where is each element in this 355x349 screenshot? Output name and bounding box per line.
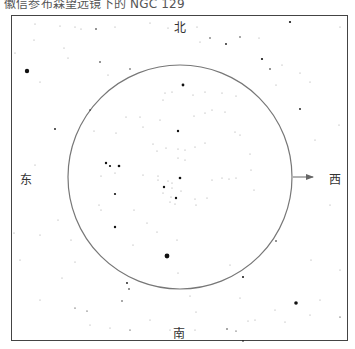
star [129, 329, 130, 330]
star [261, 58, 263, 60]
star [129, 68, 130, 69]
direction-label-north: 北 [174, 18, 186, 35]
faint-star [195, 311, 196, 312]
star [95, 28, 97, 30]
star [114, 193, 116, 195]
faint-star [194, 198, 195, 199]
faint-star [211, 109, 212, 110]
star [175, 197, 177, 199]
faint-star [239, 297, 240, 298]
faint-star [156, 150, 157, 151]
faint-star [14, 52, 15, 53]
faint-star [194, 329, 195, 330]
faint-star [204, 112, 205, 113]
star-field [0, 0, 355, 349]
faint-star [39, 299, 40, 300]
faint-star [67, 57, 68, 58]
faint-star [80, 28, 81, 29]
faint-star [338, 124, 339, 125]
star [25, 69, 29, 73]
faint-star [74, 26, 75, 27]
faint-star [156, 231, 157, 232]
direction-label-east: 东 [20, 170, 32, 187]
faint-star [180, 190, 181, 191]
faint-star [115, 132, 116, 133]
faint-star [254, 319, 255, 320]
faint-star [34, 23, 35, 24]
faint-star [184, 159, 185, 160]
star [126, 282, 128, 284]
faint-star [74, 261, 75, 262]
star [239, 36, 240, 37]
faint-star [314, 139, 315, 140]
faint-star [98, 204, 99, 205]
star [275, 240, 277, 242]
star [182, 84, 185, 87]
star [54, 128, 56, 130]
faint-star [211, 179, 212, 180]
faint-star [299, 72, 300, 73]
faint-star [177, 272, 178, 273]
faint-star [235, 95, 236, 96]
faint-star [57, 219, 58, 220]
faint-star [309, 314, 310, 315]
faint-star [174, 203, 175, 204]
faint-star [167, 180, 168, 181]
faint-star [224, 111, 225, 112]
star [225, 43, 227, 45]
star [179, 177, 182, 180]
faint-star [221, 177, 222, 178]
faint-star [114, 172, 115, 173]
faint-star [142, 174, 143, 175]
faint-star [109, 327, 110, 328]
faint-star [167, 27, 168, 28]
star [163, 186, 165, 188]
faint-star [339, 269, 340, 270]
faint-star [164, 92, 165, 93]
faint-star [149, 22, 150, 23]
star [299, 108, 301, 110]
star [294, 301, 298, 305]
faint-star [284, 321, 285, 322]
faint-star [250, 169, 251, 170]
star [177, 130, 179, 132]
star [235, 330, 236, 331]
faint-star [194, 146, 195, 147]
faint-star [199, 41, 200, 42]
faint-star [206, 197, 207, 198]
faint-star [149, 319, 150, 320]
faint-star [34, 164, 35, 165]
faint-star [13, 232, 14, 233]
star [289, 21, 291, 23]
faint-star [329, 204, 330, 205]
star [339, 316, 340, 317]
star [86, 310, 87, 311]
faint-star [184, 149, 185, 150]
faint-star [258, 37, 259, 38]
faint-star [33, 39, 34, 40]
faint-star [100, 209, 101, 210]
faint-star [165, 147, 166, 148]
faint-star [100, 175, 101, 176]
faint-star [63, 47, 64, 48]
faint-star [189, 295, 190, 296]
faint-star [142, 126, 143, 127]
faint-star [274, 309, 275, 310]
faint-star [177, 157, 178, 158]
faint-star [192, 94, 193, 95]
stars-group [25, 21, 341, 342]
star [118, 165, 121, 168]
star [114, 226, 116, 228]
star [89, 109, 90, 110]
star [242, 276, 244, 278]
star [121, 300, 122, 301]
direction-label-south: 南 [173, 324, 185, 341]
faint-star [39, 81, 40, 82]
faint-star [228, 178, 229, 179]
faint-star [89, 324, 90, 325]
faint-star [249, 153, 250, 154]
faint-star [247, 320, 248, 321]
faint-star [204, 91, 205, 92]
star [269, 68, 271, 70]
faint-star [171, 182, 172, 183]
